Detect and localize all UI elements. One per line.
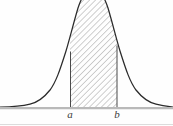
axis-label-a: a xyxy=(63,109,77,120)
shaded-area-group xyxy=(0,0,173,108)
distribution-plot-svg xyxy=(0,0,173,126)
figure-normal-distribution: a b xyxy=(0,0,173,126)
shaded-area-between-a-and-b xyxy=(0,0,173,108)
axis-label-b: b xyxy=(110,109,124,120)
